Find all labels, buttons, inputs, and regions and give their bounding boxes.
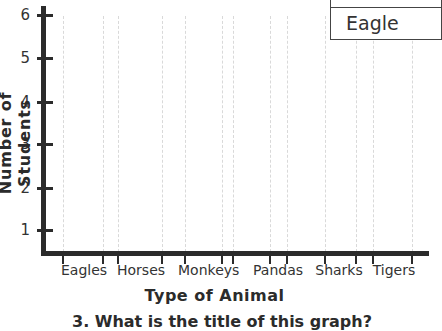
y-tick (37, 143, 53, 146)
y-tick (37, 57, 53, 60)
gridline (356, 16, 357, 252)
gridline (412, 16, 413, 252)
gridline (118, 16, 119, 252)
gridline (373, 16, 374, 252)
x-label-eagles: Eagles (61, 262, 107, 278)
x-label-pandas: Pandas (251, 262, 305, 278)
x-label-sharks: Sharks (314, 262, 364, 278)
question-text: 3. What is the title of this graph? (72, 312, 372, 331)
x-label-horses: Horses (117, 262, 165, 278)
x-label-tigers: Tigers (372, 262, 416, 278)
gridline (233, 16, 234, 252)
y-axis-line (41, 6, 46, 256)
y-axis-title: Number of Students (0, 58, 34, 228)
y-tick (37, 229, 53, 232)
gridline (287, 16, 288, 252)
y-tick-label: 6 (10, 7, 30, 23)
data-table: Eagle (330, 0, 442, 40)
gridline (185, 16, 186, 252)
x-label-monkeys: Monkeys (178, 262, 238, 278)
gridline (63, 16, 64, 252)
gridline (270, 16, 271, 252)
gridline (103, 16, 104, 252)
y-tick (37, 101, 53, 104)
y-tick (37, 187, 53, 190)
table-cell: Eagle (346, 12, 399, 34)
gridline (162, 16, 163, 252)
y-tick (37, 14, 53, 17)
x-axis-line (41, 251, 429, 256)
gridline (325, 16, 326, 252)
table-row-divider (331, 7, 441, 8)
x-axis-title: Type of Animal (0, 286, 429, 305)
gridline (222, 16, 223, 252)
